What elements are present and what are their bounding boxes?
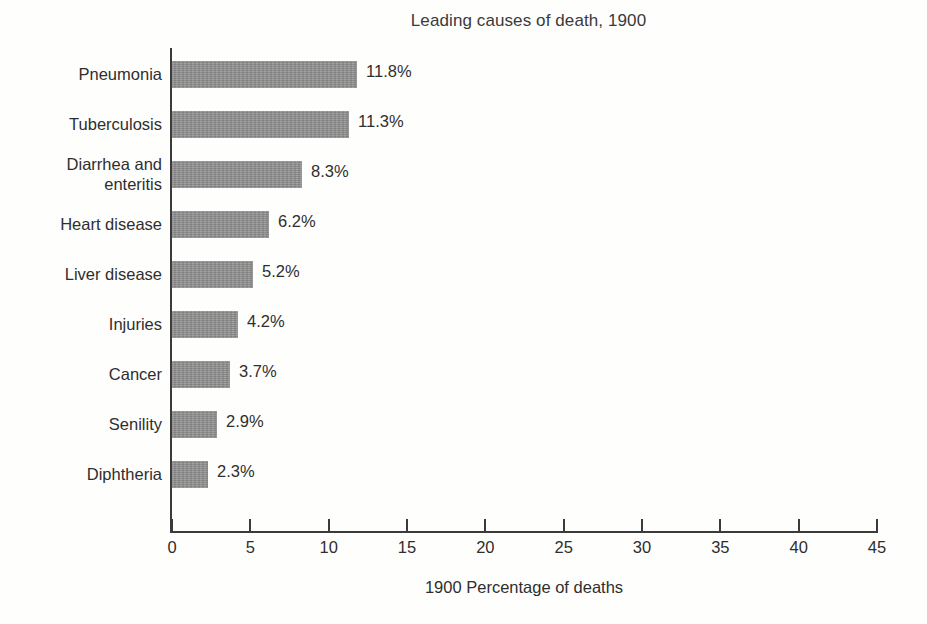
bar-row: Senility2.9% <box>0 400 927 450</box>
x-tick-mark <box>328 519 330 532</box>
x-axis-line <box>170 531 878 533</box>
bar-row: Diphtheria2.3% <box>0 450 927 500</box>
x-tick-label: 15 <box>387 538 427 557</box>
x-tick-mark <box>563 519 565 532</box>
x-tick-mark <box>641 519 643 532</box>
bar-value-label: 5.2% <box>262 262 300 281</box>
bar-category-label: Heart disease <box>10 214 162 234</box>
bar-value-label: 2.9% <box>226 412 264 431</box>
bar <box>172 411 217 438</box>
bar-row: Heart disease6.2% <box>0 200 927 250</box>
x-tick-mark <box>798 519 800 532</box>
bar-value-label: 8.3% <box>311 162 349 181</box>
x-tick-label: 0 <box>152 538 192 557</box>
bar-row: Tuberculosis11.3% <box>0 100 927 150</box>
bar-value-label: 2.3% <box>217 462 255 481</box>
plot-area: Pneumonia11.8%Tuberculosis11.3%Diarrhea … <box>0 0 927 624</box>
bar <box>172 311 238 338</box>
bar <box>172 261 253 288</box>
bar <box>172 61 357 88</box>
bar-value-label: 11.8% <box>366 62 412 81</box>
bar <box>172 461 208 488</box>
bar-category-label: Cancer <box>10 364 162 384</box>
bar-value-label: 6.2% <box>278 212 316 231</box>
x-tick-mark <box>406 519 408 532</box>
bar <box>172 111 349 138</box>
x-tick-label: 45 <box>857 538 897 557</box>
x-tick-label: 20 <box>465 538 505 557</box>
bar-value-label: 11.3% <box>358 112 404 131</box>
x-tick-label: 40 <box>779 538 819 557</box>
bar-row: Diarrhea andenteritis8.3% <box>0 150 927 200</box>
bar-category-label: Liver disease <box>10 264 162 284</box>
bar-row: Pneumonia11.8% <box>0 50 927 100</box>
chart-page: Leading causes of death, 1900 Pneumonia1… <box>0 0 927 624</box>
x-tick-label: 35 <box>700 538 740 557</box>
bar-category-label: Diarrhea andenteritis <box>10 154 162 194</box>
bar-value-label: 4.2% <box>247 312 285 331</box>
bar-category-label: Senility <box>10 414 162 434</box>
x-axis-title: 1900 Percentage of deaths <box>170 578 878 597</box>
x-tick-label: 25 <box>544 538 584 557</box>
bar-category-label: Diphtheria <box>10 464 162 484</box>
bar-category-label: Tuberculosis <box>10 114 162 134</box>
bar-category-label: Pneumonia <box>10 64 162 84</box>
bar <box>172 361 230 388</box>
x-tick-label: 5 <box>230 538 270 557</box>
x-tick-mark <box>719 519 721 532</box>
bar <box>172 161 302 188</box>
x-tick-label: 30 <box>622 538 662 557</box>
x-tick-label: 10 <box>309 538 349 557</box>
x-tick-mark <box>171 519 173 532</box>
bar-value-label: 3.7% <box>239 362 277 381</box>
x-tick-mark <box>876 519 878 532</box>
bar <box>172 211 269 238</box>
bar-row: Cancer3.7% <box>0 350 927 400</box>
bar-row: Injuries4.2% <box>0 300 927 350</box>
bar-row: Liver disease5.2% <box>0 250 927 300</box>
x-tick-mark <box>249 519 251 532</box>
bar-category-label: Injuries <box>10 314 162 334</box>
x-tick-mark <box>484 519 486 532</box>
